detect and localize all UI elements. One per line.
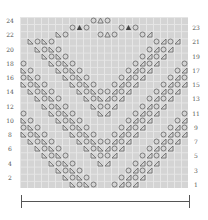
row-label-6: 6 xyxy=(4,145,16,152)
k2tog-right-decrease-icon xyxy=(104,110,111,117)
circle-yarn-over-icon xyxy=(104,152,111,159)
k2tog-right-decrease-icon xyxy=(181,81,188,88)
circle-yarn-over-icon xyxy=(132,124,139,131)
k2tog-right-decrease-icon xyxy=(146,152,153,159)
ssk-left-decrease-icon xyxy=(55,31,62,38)
circle-yarn-over-icon xyxy=(160,46,167,53)
k2tog-right-decrease-icon xyxy=(139,124,146,131)
circle-yarn-over-icon xyxy=(132,110,139,117)
ssk-left-decrease-icon xyxy=(69,67,76,74)
k2tog-right-decrease-icon xyxy=(132,181,139,188)
bracket-left-tick xyxy=(21,195,22,208)
k2tog-right-decrease-icon xyxy=(146,167,153,174)
circle-yarn-over-icon xyxy=(83,24,90,31)
row-label-21: 21 xyxy=(190,38,202,45)
ssk-left-decrease-icon xyxy=(90,138,97,145)
circle-yarn-over-icon xyxy=(118,124,125,131)
circle-yarn-over-icon xyxy=(111,81,118,88)
circle-yarn-over-icon xyxy=(153,152,160,159)
circle-yarn-over-icon xyxy=(139,103,146,110)
ssk-left-decrease-icon xyxy=(90,152,97,159)
ssk-left-decrease-icon xyxy=(69,167,76,174)
k2tog-right-decrease-icon xyxy=(160,152,167,159)
circle-yarn-over-icon xyxy=(34,124,41,131)
circle-yarn-over-icon xyxy=(69,160,76,167)
k2tog-right-decrease-icon xyxy=(125,174,132,181)
ssk-left-decrease-icon xyxy=(76,74,83,81)
circle-yarn-over-icon xyxy=(62,67,69,74)
circle-yarn-over-icon xyxy=(146,110,153,117)
circle-yarn-over-icon xyxy=(48,138,55,145)
ssk-left-decrease-icon xyxy=(48,160,55,167)
k2tog-right-decrease-icon xyxy=(132,117,139,124)
ssk-left-decrease-icon xyxy=(83,81,90,88)
ssk-left-decrease-icon xyxy=(62,124,69,131)
k2tog-right-decrease-icon xyxy=(132,167,139,174)
ssk-left-decrease-icon xyxy=(83,95,90,102)
row-label-11: 11 xyxy=(190,110,202,117)
circle-yarn-over-icon xyxy=(118,74,125,81)
circle-yarn-over-icon xyxy=(146,145,153,152)
ssk-left-decrease-icon xyxy=(62,60,69,67)
k2tog-right-decrease-icon xyxy=(160,103,167,110)
circle-yarn-over-icon xyxy=(132,174,139,181)
row-label-14: 14 xyxy=(4,88,16,95)
circle-yarn-over-icon xyxy=(83,88,90,95)
k2tog-right-decrease-icon xyxy=(146,103,153,110)
ssk-left-decrease-icon xyxy=(55,152,62,159)
circle-yarn-over-icon xyxy=(181,60,188,67)
circle-yarn-over-icon xyxy=(62,117,69,124)
ssk-left-decrease-icon xyxy=(69,181,76,188)
k2tog-right-decrease-icon xyxy=(104,160,111,167)
circle-yarn-over-icon xyxy=(167,124,174,131)
ssk-left-decrease-icon xyxy=(34,81,41,88)
ssk-left-decrease-icon xyxy=(34,131,41,138)
ssk-left-decrease-icon xyxy=(83,145,90,152)
k2tog-right-decrease-icon xyxy=(160,38,167,45)
k2tog-right-decrease-icon xyxy=(174,74,181,81)
row-label-22: 22 xyxy=(4,31,16,38)
circle-yarn-over-icon xyxy=(160,145,167,152)
circle-yarn-over-icon xyxy=(76,81,83,88)
k2tog-right-decrease-icon xyxy=(167,131,174,138)
circle-yarn-over-icon xyxy=(62,53,69,60)
row-label-19: 19 xyxy=(190,53,202,60)
k2tog-right-decrease-icon xyxy=(167,145,174,152)
k2tog-right-decrease-icon xyxy=(139,60,146,67)
circle-yarn-over-icon xyxy=(83,138,90,145)
circle-yarn-over-icon xyxy=(174,81,181,88)
circle-yarn-over-icon xyxy=(69,124,76,131)
k2tog-right-decrease-icon xyxy=(125,74,132,81)
k2tog-right-decrease-icon xyxy=(118,145,125,152)
row-label-9: 9 xyxy=(190,124,202,131)
circle-yarn-over-icon xyxy=(62,31,69,38)
k2tog-right-decrease-icon xyxy=(181,67,188,74)
k2tog-right-decrease-icon xyxy=(139,74,146,81)
ssk-left-decrease-icon xyxy=(48,46,55,53)
k2tog-right-decrease-icon xyxy=(132,67,139,74)
central-double-decrease-icon xyxy=(76,24,83,31)
circle-yarn-over-icon xyxy=(160,95,167,102)
ssk-left-decrease-icon xyxy=(97,95,104,102)
ssk-left-decrease-icon xyxy=(48,110,55,117)
k2tog-right-decrease-icon xyxy=(111,103,118,110)
row-label-2: 2 xyxy=(4,174,16,181)
circle-yarn-over-icon xyxy=(125,181,132,188)
circle-yarn-over-icon xyxy=(146,95,153,102)
row-label-7: 7 xyxy=(190,138,202,145)
ssk-left-decrease-icon xyxy=(55,167,62,174)
k2tog-right-decrease-icon xyxy=(118,81,125,88)
circle-yarn-over-icon xyxy=(153,138,160,145)
knitting-chart-grid xyxy=(20,17,188,188)
circle-yarn-over-icon xyxy=(27,81,34,88)
k2tog-right-decrease-icon xyxy=(174,138,181,145)
central-double-decrease-icon xyxy=(125,24,132,31)
circle-yarn-over-icon xyxy=(41,46,48,53)
circle-yarn-over-icon xyxy=(146,60,153,67)
row-label-12: 12 xyxy=(4,103,16,110)
row-label-8: 8 xyxy=(4,131,16,138)
circle-yarn-over-icon xyxy=(41,95,48,102)
k2tog-right-decrease-icon xyxy=(146,53,153,60)
circle-yarn-over-icon xyxy=(125,67,132,74)
row-label-16: 16 xyxy=(4,74,16,81)
